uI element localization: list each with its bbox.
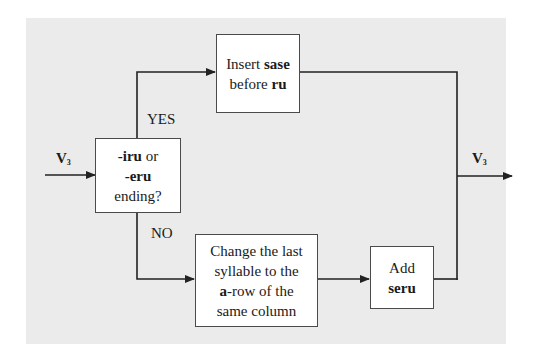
input-label-main: V (56, 150, 67, 166)
output-label-main: V (472, 150, 483, 166)
insert-ru: ru (272, 76, 287, 92)
change-line-1: Change the last (210, 243, 302, 259)
add-seru-box: Add seru (370, 246, 434, 309)
change-a: a (219, 283, 227, 299)
decision-box: -iru or -eru ending? (95, 138, 181, 213)
before-text: before (229, 76, 271, 92)
yes-label: YES (147, 110, 175, 128)
add-seru: seru (388, 280, 416, 296)
insert-sase: sase (264, 56, 290, 72)
no-connector (137, 213, 194, 279)
decision-eru: -eru (125, 168, 152, 184)
add-text: Add (389, 260, 415, 276)
decision-ending: ending? (114, 188, 161, 204)
insert-text: Insert (226, 56, 264, 72)
change-line-2: syllable to the (214, 263, 298, 279)
output-label-sub: 3 (483, 158, 487, 167)
insert-sase-box: Insert sase before ru (216, 34, 300, 113)
decision-iru: -iru (118, 148, 142, 164)
input-label: V3 (56, 150, 71, 167)
change-line-4: same column (217, 303, 297, 319)
no-label: NO (151, 224, 173, 242)
input-label-sub: 3 (67, 158, 71, 167)
output-label: V3 (472, 150, 487, 167)
change-line-3: -row of the (227, 283, 294, 299)
decision-or: or (142, 148, 158, 164)
yes-connector (137, 72, 215, 138)
change-syllable-box: Change the last syllable to the a-row of… (195, 234, 318, 327)
